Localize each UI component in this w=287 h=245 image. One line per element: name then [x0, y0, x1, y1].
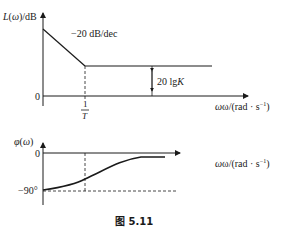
magnitude-y-label: L(ω)/dB: [3, 11, 37, 22]
gain-label: 20 lgK: [157, 76, 184, 87]
magnitude-origin-label: 0: [35, 91, 40, 102]
phase-plot: [43, 143, 180, 205]
corner-label-denominator: T: [82, 111, 87, 122]
magnitude-x-label: ωω/(rad · s−1): [215, 99, 269, 112]
phase-zero-label: 0: [35, 148, 40, 159]
phase-curve: [43, 157, 165, 190]
phase-x-label: ωω/(rad · s−1): [215, 156, 269, 169]
bode-diagram: [0, 0, 287, 245]
phase-min-label: −90°: [18, 185, 38, 196]
corner-label-numerator: 1: [83, 99, 88, 110]
figure-caption: 图 5.11: [115, 213, 153, 228]
phase-y-label: φ(ω): [14, 136, 33, 147]
slope-label: −20 dB/dec: [71, 28, 117, 39]
